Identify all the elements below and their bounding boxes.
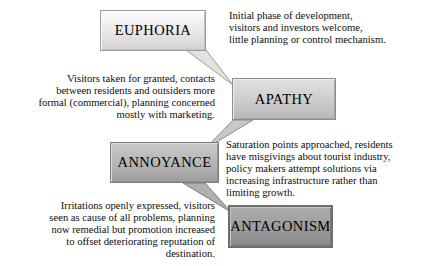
- description-line: limiting growth.: [226, 187, 438, 199]
- description-line: Saturation points approached, residents: [226, 139, 438, 151]
- description-line: formal (commercial), planning concerned: [4, 97, 215, 109]
- description-line: to offset deteriorating reputation of: [4, 236, 215, 248]
- stage-description-apathy: Visitors taken for granted, contacts bet…: [4, 73, 215, 121]
- stage-box-euphoria[interactable]: EUPHORIA: [100, 10, 206, 51]
- irridex-diagram: EUPHORIA Initial phase of development, v…: [0, 0, 439, 266]
- description-line: Irritations openly expressed, visitors: [4, 200, 215, 212]
- stage-label-antagonism: ANTAGONISM: [230, 219, 330, 234]
- stage-box-annoyance[interactable]: ANNOYANCE: [110, 142, 219, 183]
- stage-description-euphoria: Initial phase of development, visitors a…: [229, 10, 435, 46]
- description-line: destination.: [4, 248, 215, 260]
- description-line: visitors and investors welcome,: [229, 22, 435, 34]
- description-line: Initial phase of development,: [229, 10, 435, 22]
- stage-description-annoyance: Saturation points approached, residents …: [226, 139, 438, 199]
- description-line: mostly with marketing.: [4, 109, 215, 121]
- description-line: between residents and outsiders more: [4, 85, 215, 97]
- description-line: policy makers attempt solutions via: [226, 163, 438, 175]
- description-line: Visitors taken for granted, contacts: [4, 73, 215, 85]
- stage-box-antagonism[interactable]: ANTAGONISM: [228, 205, 333, 248]
- description-line: have misgivings about tourist industry,: [226, 151, 438, 163]
- stage-label-apathy: APATHY: [255, 92, 313, 107]
- description-line: now remedial but promotion increased: [4, 224, 215, 236]
- stage-box-apathy[interactable]: APATHY: [232, 78, 336, 120]
- stage-description-antagonism: Irritations openly expressed, visitors s…: [4, 200, 215, 260]
- description-line: little planning or control mechanism.: [229, 34, 435, 46]
- description-line: increasing infrastructure rather than: [226, 175, 438, 187]
- stage-label-euphoria: EUPHORIA: [115, 23, 192, 38]
- stage-label-annoyance: ANNOYANCE: [118, 155, 212, 170]
- description-line: seen as cause of all problems, planning: [4, 212, 215, 224]
